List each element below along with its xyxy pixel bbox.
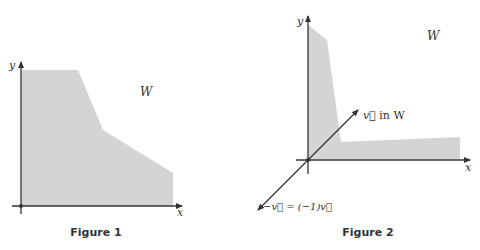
y-axis-label: y [8, 59, 16, 72]
vector-v-symbol: v⃗ [363, 109, 376, 122]
figure-caption: Figure 2 [342, 226, 393, 239]
y-axis-label: y [296, 15, 304, 28]
region-label: W [140, 85, 154, 99]
origin-dot [306, 158, 310, 162]
figure-1: y x W Figure 1 [8, 59, 184, 239]
x-axis-label: x [177, 206, 184, 219]
figures-canvas: y x W Figure 1 y x W v⃗ in W −v⃗ = (−1)v… [0, 0, 480, 250]
region-w-shape [308, 25, 460, 159]
region-label: W [427, 29, 441, 43]
vector-v-label: v⃗ in W [363, 109, 405, 122]
figure-2: y x W v⃗ in W −v⃗ = (−1)v⃗ Figure 2 [258, 15, 472, 239]
origin-dot [19, 204, 23, 208]
x-axis-label: x [465, 161, 472, 174]
figure-caption: Figure 1 [70, 226, 121, 239]
neg-vector-label: −v⃗ = (−1)v⃗ [263, 201, 332, 212]
vector-v-suffix: in W [376, 109, 406, 122]
